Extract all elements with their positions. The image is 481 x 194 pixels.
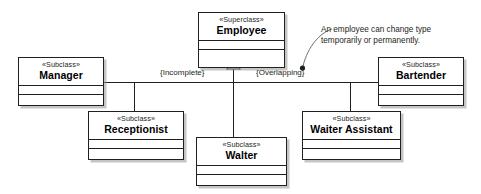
operations-compartment-waiter-assistant: [303, 149, 400, 158]
stereotype-label-walter: «Subclass»: [199, 141, 284, 149]
class-box-manager[interactable]: «Subclass» Manager: [18, 57, 104, 106]
class-title-manager: Manager: [21, 70, 101, 81]
class-name-compartment-manager: «Subclass» Manager: [19, 58, 103, 86]
class-box-bartender[interactable]: «Subclass» Bartender: [378, 57, 464, 106]
note-text-line-2: temporarily or permanently.: [321, 36, 420, 47]
operations-compartment-walter: [197, 175, 286, 184]
connector-to-walter: [233, 82, 234, 137]
constraint-incomplete: {Incomplete}: [160, 68, 204, 77]
operations-compartment-bartender: [379, 95, 463, 104]
class-name-compartment-bartender: «Subclass» Bartender: [379, 58, 463, 86]
constraint-overlapping: {Overlapping}: [256, 68, 304, 77]
class-name-compartment-walter: «Subclass» Walter: [197, 138, 286, 166]
operations-compartment-employee: [199, 50, 284, 59]
attributes-compartment-manager: [19, 86, 103, 95]
stereotype-label-waiter-assistant: «Subclass»: [305, 115, 398, 123]
class-box-walter[interactable]: «Subclass» Walter: [196, 137, 287, 186]
class-box-receptionist[interactable]: «Subclass» Receptionist: [88, 111, 184, 160]
attributes-compartment-employee: [199, 41, 284, 50]
stereotype-label-employee: «Superclass»: [201, 16, 282, 24]
note-text-line-1: An employee can change type: [321, 25, 431, 36]
stereotype-label-receptionist: «Subclass»: [91, 115, 181, 123]
operations-compartment-receptionist: [89, 149, 183, 158]
class-name-compartment-waiter-assistant: «Subclass» Waiter Assistant: [303, 112, 400, 140]
class-box-employee[interactable]: «Superclass» Employee: [198, 12, 285, 68]
attributes-compartment-waiter-assistant: [303, 140, 400, 149]
class-title-waiter-assistant: Waiter Assistant: [305, 124, 398, 135]
attributes-compartment-walter: [197, 166, 286, 175]
connector-to-waiter-assistant: [350, 82, 351, 111]
class-title-bartender: Bartender: [381, 70, 461, 81]
class-box-waiter-assistant[interactable]: «Subclass» Waiter Assistant: [302, 111, 401, 160]
connector-to-receptionist: [134, 82, 135, 111]
class-title-employee: Employee: [201, 25, 282, 36]
attributes-compartment-bartender: [379, 86, 463, 95]
class-name-compartment-employee: «Superclass» Employee: [199, 13, 284, 41]
class-title-receptionist: Receptionist: [91, 124, 181, 135]
class-name-compartment-receptionist: «Subclass» Receptionist: [89, 112, 183, 140]
operations-compartment-manager: [19, 95, 103, 104]
stereotype-label-bartender: «Subclass»: [381, 61, 461, 69]
employee-connector-stem: [233, 68, 234, 83]
stereotype-label-manager: «Subclass»: [21, 61, 101, 69]
class-title-walter: Walter: [199, 150, 284, 161]
attributes-compartment-receptionist: [89, 140, 183, 149]
uml-class-diagram-canvas: {Incomplete} {Overlapping} An employee c…: [0, 0, 481, 194]
